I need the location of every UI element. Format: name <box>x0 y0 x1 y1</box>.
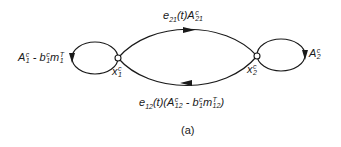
label-node-x2: xc2 <box>247 64 257 77</box>
arrow-down-icon <box>302 50 308 60</box>
node-x2 <box>254 53 260 59</box>
arrow-right-icon <box>183 27 195 33</box>
edge-x2-to-x1 <box>118 56 257 86</box>
edge-x1-to-x2 <box>118 29 257 58</box>
arrow-down-icon <box>69 53 75 63</box>
label-edge-x1-to-x2: e21(t)Ac21 <box>163 10 203 23</box>
label-node-x1: xc1 <box>112 66 122 79</box>
label-edge-x2-to-x1: e12(t)(Ac12 - bc1mT12) <box>139 97 224 110</box>
figure-caption: (a) <box>181 124 194 136</box>
node-x1 <box>115 55 121 61</box>
label-self-loop-x1: Ac1 - bc1mT1 <box>18 52 64 65</box>
self-loop-x2 <box>257 39 305 71</box>
label-self-loop-x2: Ac2 <box>309 48 321 61</box>
